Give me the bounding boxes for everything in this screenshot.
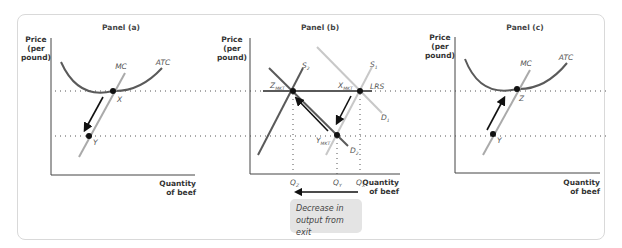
panel-a-point-x [110, 88, 116, 94]
panel-b-point-z-mkt [290, 88, 296, 94]
panel-a-y-point-label: Y [93, 138, 99, 147]
panel-a-decline-arrow [86, 97, 103, 128]
panel-b-s1-label: S1 [370, 60, 378, 70]
panel-a: Panel (a) Price (per pound) Quantity of … [21, 23, 197, 197]
panel-b-s2-curve [258, 68, 303, 155]
note-line-1: Decrease in [296, 203, 356, 215]
panel-c-x-label-1: Quantity [563, 178, 600, 187]
panel-b-y-label-3: pound) [217, 53, 247, 62]
panel-b-d2-label: D2 [350, 146, 359, 156]
panel-b-title: Panel (b) [301, 23, 339, 32]
panel-a-y-label-2: (per [27, 44, 45, 53]
panel-b-x-label-1: Quantity [362, 178, 399, 187]
panel-c-atc-label: ATC [558, 53, 574, 62]
panel-c-atc-curve [465, 59, 567, 91]
panel-b-y-label-2: (per [223, 44, 241, 53]
panel-a-x-label: X [116, 95, 123, 104]
panel-a-title: Panel (a) [102, 23, 140, 32]
panel-c-y-label-3: pound) [425, 51, 455, 60]
panel-c-z-label: Z [518, 94, 525, 103]
panel-b-x-label-2: of beef [369, 187, 400, 196]
panel-b-lrs-label: LRS [370, 82, 384, 91]
panel-b-y-label-1: Price [221, 35, 242, 44]
panel-c-y-label-2: (per [431, 42, 449, 51]
panel-b-qy-label: QY [333, 178, 343, 188]
panel-c-x-label-2: of beef [570, 187, 601, 196]
panel-a-atc-curve [61, 62, 162, 93]
panel-a-y-label-1: Price [25, 35, 46, 44]
panel-c-point-y [490, 131, 496, 137]
panel-b-supply-shift-arrow [338, 96, 351, 121]
panel-a-x-label-2: of beef [166, 188, 197, 197]
panel-c-mc-curve [483, 70, 530, 155]
panel-b: Panel (b) Price (per pound) Quantity of … [217, 23, 400, 196]
panel-c: Panel (c) Price (per pound) Quantity of … [425, 23, 601, 196]
panel-b-d1-label: D1 [381, 113, 390, 123]
panel-b-point-x-mkt [357, 88, 363, 94]
panel-b-y-mkt-label: YMKT [316, 136, 331, 146]
panel-c-title: Panel (c) [506, 23, 543, 32]
panel-a-x-label-1: Quantity [159, 179, 196, 188]
panel-c-point-z [514, 86, 520, 92]
panel-a-point-y [86, 133, 92, 139]
panel-b-qz-label: QZ [290, 178, 300, 188]
panel-b-point-y-mkt [334, 132, 340, 138]
panel-c-mc-label: MC [520, 59, 532, 68]
panel-c-rise-arrow [487, 100, 503, 130]
panel-a-atc-label: ATC [155, 58, 171, 67]
panel-b-d1-curve [317, 47, 382, 113]
panel-a-y-label-3: pound) [21, 53, 51, 62]
note-line-2: output from exit [296, 215, 356, 239]
panel-c-y-point-label: Y [497, 136, 503, 145]
exit-output-note: Decrease in output from exit [290, 199, 362, 233]
panel-b-exit-arrow [298, 100, 328, 131]
panel-a-mc-label: MC [115, 62, 127, 71]
panel-a-mc-curve [79, 73, 125, 157]
panel-b-s2-label: S2 [302, 61, 310, 71]
panel-c-y-label-1: Price [429, 33, 450, 42]
